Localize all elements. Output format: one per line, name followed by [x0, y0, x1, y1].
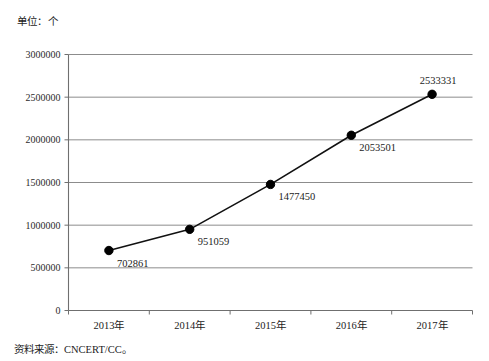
x-tick-label: 2014年: [174, 319, 205, 331]
line-chart-plot: 0500000100000015000002000000250000030000…: [0, 0, 489, 361]
y-tick-label: 1000000: [26, 220, 61, 231]
source-note: 资料来源：CNCERT/CC。: [14, 343, 132, 356]
chart-figure: 单位：个 05000001000000150000020000002500000…: [0, 0, 489, 361]
data-point-label: 702861: [117, 258, 148, 269]
x-tick-label: 2016年: [336, 319, 367, 331]
gridline-group: [69, 55, 473, 268]
data-point-marker: [347, 131, 355, 139]
series-line: [109, 94, 432, 250]
data-point-marker: [105, 246, 113, 254]
series-marker-group: [105, 90, 437, 255]
data-point-label: 2533331: [420, 75, 457, 86]
x-tick-label: 2017年: [417, 319, 448, 331]
y-tick-mark-group: [65, 55, 69, 311]
data-point-label: 2053501: [359, 142, 396, 153]
series-line-group: [109, 94, 432, 250]
x-tick-label: 2015年: [255, 319, 286, 331]
data-point-label: 1477450: [279, 191, 316, 202]
x-tick-mark-group: [69, 311, 473, 315]
y-tick-label-group: 0500000100000015000002000000250000030000…: [26, 49, 61, 316]
y-tick-label: 1500000: [26, 177, 61, 188]
y-tick-label: 0: [56, 305, 61, 316]
data-label-group: 702861951059147745020535012533331: [117, 75, 457, 268]
x-tick-label: 2013年: [93, 319, 124, 331]
data-point-marker: [428, 90, 436, 98]
data-point-label: 951059: [198, 236, 230, 247]
data-point-marker: [186, 225, 194, 233]
y-tick-label: 2000000: [26, 134, 61, 145]
y-tick-label: 2500000: [26, 92, 61, 103]
data-point-marker: [266, 180, 274, 188]
x-tick-label-group: 2013年2014年2015年2016年2017年: [93, 319, 447, 331]
y-tick-label: 3000000: [26, 49, 61, 60]
y-tick-label: 500000: [31, 262, 61, 273]
